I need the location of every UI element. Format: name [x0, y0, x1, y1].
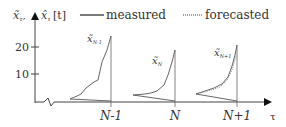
y-tick-label-20: 20: [15, 41, 29, 54]
x-tick-label-n: N: [169, 109, 181, 123]
curve-n-plus-1-return: [196, 94, 237, 101]
curve-label-n-minus-1: x̃N-1: [87, 33, 102, 45]
x-tick-label-n-plus-1: N+1: [222, 109, 251, 123]
y-axis-label-forecast: x̂τ: [41, 9, 51, 22]
curve-label-n: x̃N: [152, 55, 163, 67]
curve-n-minus-1-return: [70, 99, 111, 101]
y-axis-unit: [t]: [53, 9, 66, 22]
curve-n-return: [133, 95, 175, 101]
legend-forecasted-label: forecasted: [205, 8, 269, 22]
x-tick-label-n-minus-1: N-1: [99, 109, 122, 123]
curve-label-n-plus-1: x̃N+1: [214, 47, 231, 59]
y-tick-label-10: 10: [15, 68, 29, 81]
y-axis-label-measured: x̃τ,: [13, 9, 26, 22]
curve-n-minus-1-measured: [70, 36, 111, 99]
legend-measured-label: measured: [106, 8, 166, 22]
forecast-diagram: measured forecasted x̃τ, x̂τ [t] 20 10 N…: [0, 0, 286, 127]
x-axis-label: τ: [270, 111, 276, 122]
curve-n-plus-1-forecasted: [196, 56, 236, 94]
